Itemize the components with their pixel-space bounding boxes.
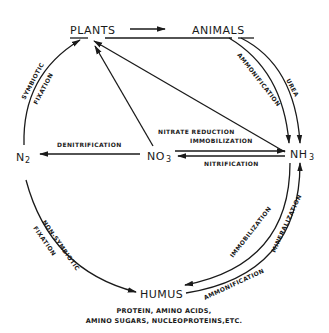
caption-line-1: PROTEIN, AMINO ACIDS, xyxy=(117,307,212,315)
node-humus: HUMUS xyxy=(140,288,183,301)
node-animals: ANIMALS xyxy=(192,24,245,37)
arrow-symbiotic-fixation xyxy=(24,40,80,145)
svg-text:NO: NO xyxy=(147,150,165,163)
svg-text:2: 2 xyxy=(25,156,31,165)
label-immobilization-mid: IMMOBILIZATION xyxy=(190,137,253,144)
nitrogen-cycle-diagram: PLANTS ANIMALS N 2 NO 3 NH 3 HUMUS SYMBI… xyxy=(0,0,329,333)
caption-line-2: AMINO SUGARS, NUCLEOPROTEINS,ETC. xyxy=(86,317,243,325)
svg-text:3: 3 xyxy=(166,155,172,164)
label-ammonification-bottom: AMMONIFICATION xyxy=(202,267,265,301)
node-n2: N 2 xyxy=(16,151,31,165)
svg-text:N: N xyxy=(16,151,25,164)
arrow-immobilization-bottom xyxy=(185,163,290,285)
label-mineralization: MINERALIZATION xyxy=(270,193,303,253)
node-nh3: NH 3 xyxy=(290,148,315,162)
node-no3: NO 3 xyxy=(147,150,172,164)
svg-text:3: 3 xyxy=(309,153,315,162)
label-nitrate-reduction: NITRATE REDUCTION xyxy=(158,128,235,135)
label-immobilization-bottom: IMMOBILIZATION xyxy=(228,205,272,259)
label-denitrification: DENITRIFICATION xyxy=(57,141,122,148)
label-nitrification: NITRIFICATION xyxy=(204,160,259,167)
svg-text:NH: NH xyxy=(290,148,308,161)
label-ammonification-top: AMMONIFICATION xyxy=(236,51,282,107)
arrow-no3-to-plants xyxy=(95,46,153,146)
node-plants: PLANTS xyxy=(70,24,115,37)
arrow-nh3-to-plants xyxy=(94,41,285,152)
